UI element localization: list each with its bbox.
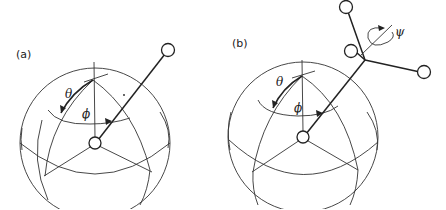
equator-front [229,140,378,175]
spoke-left [44,144,95,176]
spin-axis [360,25,392,56]
orientation-diagram: (a) θ ϕ (b) [0,0,446,209]
z-axis [302,60,303,132]
panel-a: (a) θ ϕ [16,44,175,210]
meridian-far-left [37,120,48,200]
panel-b: (b) θ ϕ ψ [228,1,431,210]
equator-right-tick [160,112,169,148]
atom-center [89,137,101,149]
spoke-right [303,138,358,170]
bond-right [365,60,420,72]
panel-b-label: (b) [232,37,248,50]
meridian-left-lower [253,172,258,205]
atom-end [162,44,175,57]
meridian-right [302,76,358,170]
panel-a-label: (a) [16,48,31,61]
phi-label: ϕ [294,101,302,115]
theta-label: θ [276,75,284,89]
psi-label: ψ [395,25,405,39]
atom-center [297,131,309,143]
z-axis [94,62,95,138]
psi-arrowhead-icon [378,25,385,31]
meridian-right-lower [140,170,150,205]
atom-right [418,66,431,79]
atom-back [345,45,358,58]
dot-marker [123,94,125,96]
pole-tick [84,74,108,82]
atom-upper [340,1,353,14]
meridian-right-lower [350,170,358,205]
meridian-left [253,76,302,172]
meridian-right [93,80,150,170]
theta-label: θ [65,87,73,101]
phi-label: ϕ [82,107,90,121]
equator-left-tick [21,128,22,150]
molecule-rod [98,54,165,140]
